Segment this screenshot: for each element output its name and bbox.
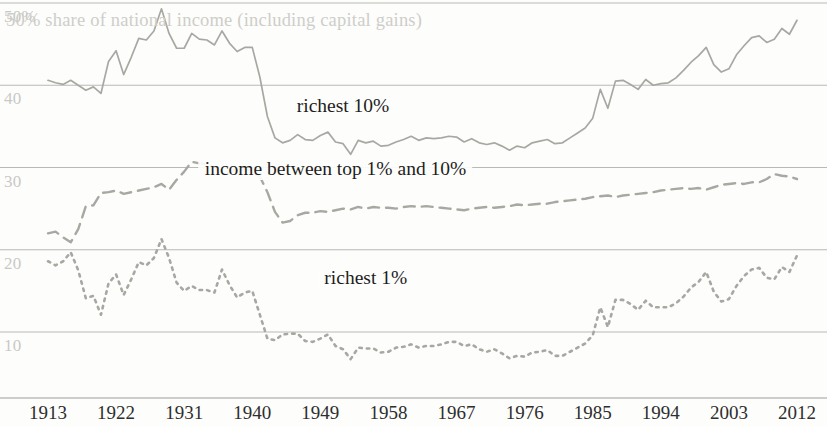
series-label-1: richest 10% (291, 95, 396, 117)
x-tick-label: 1958 (369, 402, 407, 424)
x-tick-label: 1976 (506, 402, 544, 424)
y-tick-label: 30 (4, 172, 22, 192)
series-label-2: income between top 1% and 10% (199, 158, 473, 180)
x-tick-label: 1949 (301, 402, 339, 424)
x-tick-label: 1922 (97, 402, 135, 424)
y-tick-label: 40 (4, 89, 22, 109)
x-tick-label: 1985 (574, 402, 612, 424)
x-tick-label: 1994 (642, 402, 680, 424)
x-tick-label: 1967 (438, 402, 476, 424)
chart-title: 50% share of national income (including … (6, 10, 422, 31)
y-tick-label: 50% (4, 7, 36, 27)
income-share-chart: 50% share of national income (including … (0, 0, 827, 427)
series-lines (48, 9, 797, 359)
x-tick-label: 2012 (778, 402, 816, 424)
x-tick-label: 1913 (29, 402, 67, 424)
x-tick-label: 1940 (233, 402, 271, 424)
y-tick-label: 10 (4, 336, 22, 356)
x-tick-label: 1931 (165, 402, 203, 424)
x-tick-label: 2003 (710, 402, 748, 424)
chart-plot-area (0, 0, 827, 427)
y-tick-label: 20 (4, 254, 22, 274)
series-label-3: richest 1% (318, 267, 413, 289)
series-line-3 (48, 239, 797, 359)
